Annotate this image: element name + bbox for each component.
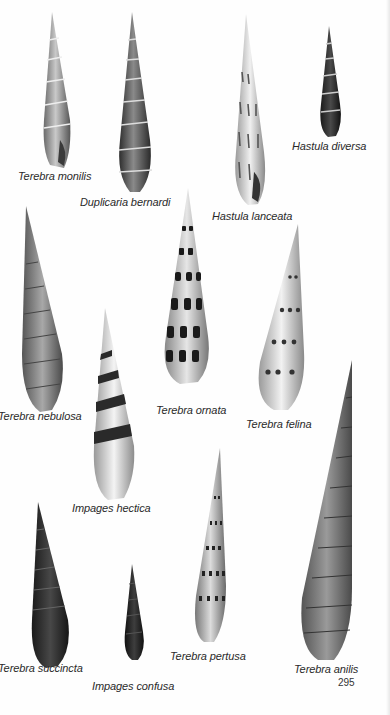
terebra-nebulosa-illustration xyxy=(18,204,68,414)
caption-impages-hectica: Impages hectica xyxy=(72,502,151,514)
page-edge-shadow xyxy=(386,0,390,715)
caption-terebra-anilis: Terebra anilis xyxy=(294,663,358,675)
terebra-pertusa-illustration xyxy=(190,446,230,646)
caption-duplicaria-bernardi: Duplicaria bernardi xyxy=(80,196,170,208)
impages-confusa-illustration xyxy=(120,562,146,662)
terebra-monilis-illustration xyxy=(36,10,76,170)
terebra-ornata-illustration xyxy=(158,186,212,386)
terebra-succincta-illustration xyxy=(28,500,72,670)
caption-terebra-monilis: Terebra monilis xyxy=(18,170,91,182)
hastula-diversa-illustration xyxy=(316,24,344,139)
caption-hastula-diversa: Hastula diversa xyxy=(292,140,366,152)
page-number: 295 xyxy=(338,677,355,688)
caption-impages-confusa: Impages confusa xyxy=(92,680,174,692)
caption-terebra-succincta: Terebra succincta xyxy=(0,662,83,674)
caption-terebra-pertusa: Terebra pertusa xyxy=(170,650,246,662)
caption-terebra-felina: Terebra felina xyxy=(246,418,311,430)
caption-terebra-nebulosa: Terebra nebulosa xyxy=(0,410,82,422)
caption-hastula-lanceata: Hastula lanceata xyxy=(212,210,292,222)
terebra-anilis-illustration xyxy=(296,358,358,662)
book-page: Terebra monilis Duplicaria bernardi Hast… xyxy=(0,0,390,715)
impages-hectica-illustration xyxy=(90,306,136,502)
caption-terebra-ornata: Terebra ornata xyxy=(156,404,226,416)
hastula-lanceata-illustration xyxy=(226,12,272,207)
duplicaria-bernardi-illustration xyxy=(112,10,158,195)
